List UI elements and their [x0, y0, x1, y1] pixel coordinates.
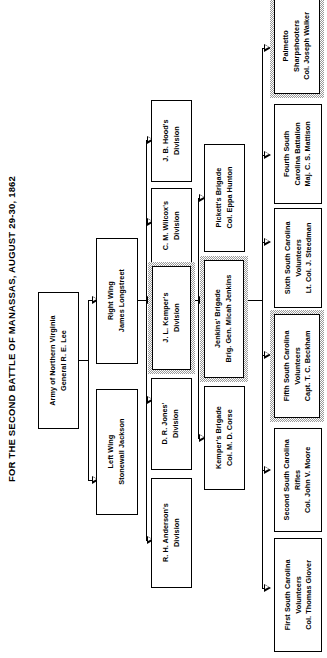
node-regiment-sixth-sc-volunteers-label: Sixth South Carolina Volunteers Lt. Col.… [282, 222, 314, 295]
node-regiment-second-sc-rifles[interactable]: Second South Carolina Rifles Col. John V… [274, 428, 322, 532]
node-regiment-fifth-sc-volunteers-label: Fifth South Carolina Volunteers Capt. T.… [281, 331, 313, 402]
node-brigade-pickett-label: Pickett's Brigade Col. Eppa Hunton [214, 167, 235, 229]
node-division-jones-label: D. R. Jones' Division [161, 403, 182, 445]
node-regiment-first-sc-volunteers[interactable]: First South Carolina Volunteers Col. Tho… [274, 538, 322, 652]
node-division-kemper-inner: J. L. Kemper's Division [152, 266, 191, 370]
node-division-wilcox-label: C. M. Wilcox's Division [161, 201, 182, 250]
node-division-anderson[interactable]: R. H. Anderson's Division [151, 478, 192, 588]
node-brigade-jenkins[interactable]: Jenkins' Brigade Brig. Gen. Micah Jenkin… [200, 256, 248, 382]
node-regiment-fourth-sc-battalion[interactable]: Fourth South Carolina Battalion Maj. C. … [274, 104, 322, 204]
node-regiment-sixth-sc-volunteers[interactable]: Sixth South Carolina Volunteers Lt. Col.… [274, 208, 322, 308]
connector-divisions-bus [146, 140, 147, 540]
node-brigade-pickett[interactable]: Pickett's Brigade Col. Eppa Hunton [204, 144, 245, 252]
arrowhead-regiment-1 [264, 151, 271, 159]
node-brigade-kemper-label: Kemper's Brigade Col. M. D. Corse [214, 407, 235, 470]
connector-army-to-wings-stem [78, 360, 88, 361]
node-wing-left[interactable]: Left Wing Stonewall Jackson [96, 389, 138, 515]
arrowhead-regiment-4 [264, 466, 271, 474]
node-regiment-fifth-sc-volunteers-inner: Fifth South Carolina Volunteers Capt. T.… [274, 314, 320, 418]
node-regiment-second-sc-rifles-label: Second South Carolina Rifles Col. John V… [282, 439, 314, 520]
chart-title: FOR THE SECOND BATTLE OF MANASSAS, AUGUS… [0, 0, 22, 658]
node-regiment-palmetto-sharpshooters-inner: Palmetto Sharpshooters Col. Joseph Walke… [274, 0, 320, 94]
node-army[interactable]: Army of Northern Virginia General R. E. … [38, 292, 79, 429]
node-division-kemper-label: J. L. Kemper's Division [161, 293, 182, 343]
connector-regiments-bus [262, 48, 263, 588]
node-division-wilcox[interactable]: C. M. Wilcox's Division [151, 188, 192, 264]
node-division-anderson-label: R. H. Anderson's Division [161, 503, 182, 562]
node-division-jones[interactable]: D. R. Jones' Division [151, 378, 192, 470]
node-brigade-jenkins-inner: Jenkins' Brigade Brig. Gen. Micah Jenkin… [204, 260, 244, 378]
node-regiment-palmetto-sharpshooters[interactable]: Palmetto Sharpshooters Col. Joseph Walke… [270, 0, 324, 98]
arrowhead-regiment-5 [264, 584, 271, 592]
connector-rightwing-stem [138, 300, 146, 301]
node-division-hood[interactable]: J. B. Hood's Division [151, 100, 192, 182]
arrowhead-regiment-2 [264, 238, 271, 246]
connector-brigades-bus [198, 198, 199, 438]
node-brigade-jenkins-label: Jenkins' Brigade Brig. Gen. Micah Jenkin… [213, 275, 234, 363]
node-division-kemper[interactable]: J. L. Kemper's Division [148, 262, 195, 374]
node-army-label: Army of Northern Virginia General R. E. … [48, 315, 69, 405]
node-wing-right[interactable]: Right Wing James Longstreet [96, 238, 138, 364]
node-division-hood-label: J. B. Hood's Division [161, 120, 182, 162]
node-wing-right-label: Right Wing James Longstreet [106, 269, 127, 332]
node-regiment-first-sc-volunteers-label: First South Carolina Volunteers Col. Tho… [282, 560, 314, 631]
node-brigade-kemper[interactable]: Kemper's Brigade Col. M. D. Corse [204, 386, 245, 490]
node-regiment-palmetto-sharpshooters-label: Palmetto Sharpshooters Col. Joseph Walke… [281, 12, 313, 80]
node-regiment-fourth-sc-battalion-label: Fourth South Carolina Battalion Maj. C. … [282, 121, 314, 186]
node-wing-left-label: Left Wing Stonewall Jackson [106, 419, 127, 485]
node-regiment-fifth-sc-volunteers[interactable]: Fifth South Carolina Volunteers Capt. T.… [270, 310, 324, 422]
connector-jenkinsbde-stem [248, 300, 262, 301]
connector-wings-bus [88, 300, 89, 480]
